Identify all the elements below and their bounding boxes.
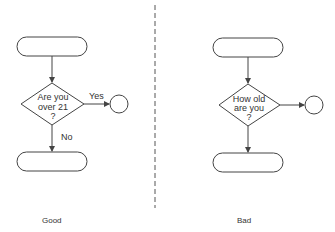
good-start-terminal <box>17 37 87 56</box>
good-yes-label: Yes <box>89 91 104 101</box>
bad-end-terminal <box>213 153 283 172</box>
good-no-label: No <box>61 132 73 142</box>
good-yes-connector <box>110 95 128 113</box>
bad-start-terminal <box>213 38 283 57</box>
good-caption: Good <box>42 216 62 225</box>
good-decision-text-3: ? <box>50 111 55 121</box>
bad-flowchart: How old are you ? Bad <box>213 38 323 225</box>
flowchart-comparison: Are you over 21 ? Yes No Good How old ar… <box>0 0 335 232</box>
bad-caption: Bad <box>237 216 251 225</box>
good-end-terminal <box>17 152 87 171</box>
bad-decision-text-3: ? <box>246 112 251 122</box>
good-decision-text-1: Are you <box>37 92 68 102</box>
bad-connector <box>305 96 323 114</box>
good-flowchart: Are you over 21 ? Yes No Good <box>17 37 128 225</box>
